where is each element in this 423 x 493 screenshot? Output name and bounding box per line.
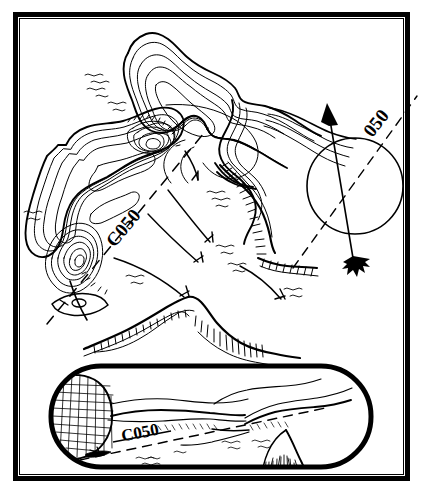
sketch-map-artwork: C050 050 C050 xyxy=(0,0,423,493)
perspective-inset xyxy=(49,366,371,484)
sketch-map-sheet: C050 050 C050 xyxy=(0,0,423,493)
